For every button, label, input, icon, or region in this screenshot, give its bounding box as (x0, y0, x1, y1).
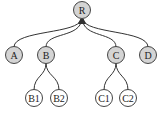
node-c-label: C (113, 50, 120, 61)
node-b-label: B (43, 50, 50, 61)
node-b2: B2 (51, 90, 68, 107)
tree-diagram: R A B C D B1 B2 C1 C2 (0, 0, 159, 114)
node-r-label: R (79, 5, 86, 16)
edge-c1-c (104, 63, 116, 90)
node-c1: C1 (96, 90, 113, 107)
node-b1-label: B1 (28, 93, 40, 104)
edge-b1-b (34, 63, 46, 90)
node-c2: C2 (120, 90, 137, 107)
node-b: B (38, 47, 55, 64)
node-a: A (6, 47, 23, 64)
edge-b-r (46, 19, 82, 47)
node-a-label: A (10, 50, 18, 61)
node-c2-label: C2 (122, 93, 134, 104)
node-c: C (108, 47, 125, 64)
node-d-label: D (144, 50, 151, 61)
node-r: R (74, 2, 91, 19)
edge-c-r (83, 19, 117, 47)
node-b2-label: B2 (53, 93, 65, 104)
node-d: D (140, 47, 157, 64)
node-c1-label: C1 (98, 93, 110, 104)
edge-b2-b (46, 63, 59, 90)
edge-d-r (83, 19, 148, 47)
node-b1: B1 (26, 90, 43, 107)
edge-c2-c (116, 63, 128, 90)
